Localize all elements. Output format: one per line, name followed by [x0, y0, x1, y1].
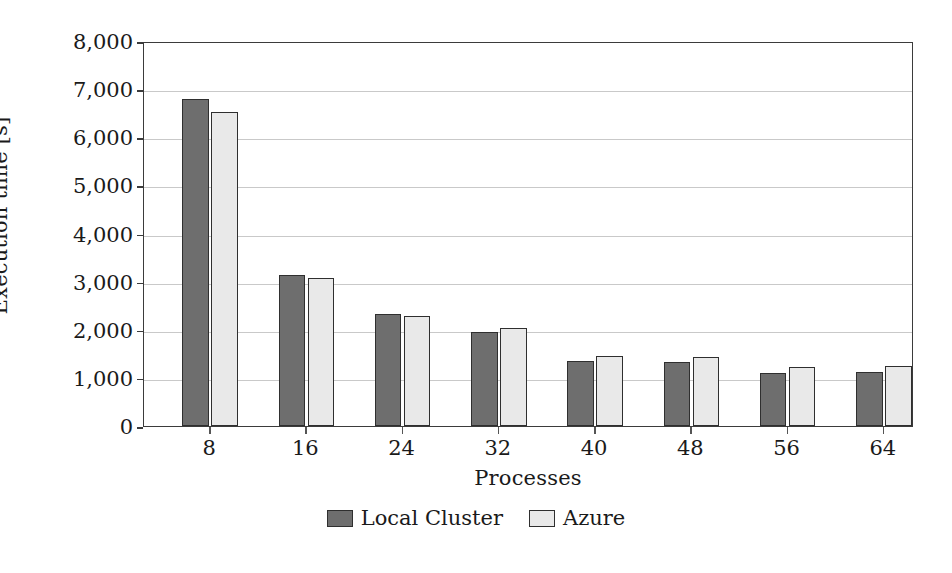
x-axis-tick-label: 40	[559, 438, 629, 459]
gridline	[144, 236, 912, 237]
bar-azure-56	[789, 367, 816, 426]
gridline	[144, 284, 912, 285]
y-axis-tick-mark	[137, 427, 143, 429]
bar-azure-48	[693, 357, 720, 426]
bar-azure-16	[308, 278, 335, 426]
x-axis-tick-mark	[498, 427, 499, 434]
x-axis-tick-label: 8	[174, 438, 244, 459]
bar-azure-24	[404, 316, 431, 426]
legend-label: Azure	[563, 508, 625, 529]
gridline	[144, 91, 912, 92]
x-axis-tick-mark	[305, 427, 306, 434]
bar-azure-64	[885, 366, 912, 426]
y-axis-tick-label: 5,000	[13, 176, 133, 197]
plot-area	[143, 42, 913, 427]
x-axis-tick-label: 64	[848, 438, 918, 459]
bar-local-cluster-48	[664, 362, 691, 426]
legend-swatch-icon	[327, 510, 353, 527]
legend-entry-azure[interactable]: Azure	[529, 508, 625, 529]
x-axis-tick-label: 48	[655, 438, 725, 459]
bar-local-cluster-32	[471, 332, 498, 426]
y-axis-tick-label: 4,000	[13, 225, 133, 246]
x-axis-tick-mark	[787, 427, 788, 434]
y-axis-tick-label: 7,000	[13, 80, 133, 101]
chart-legend: Local ClusterAzure	[0, 508, 952, 529]
x-axis-title: Processes	[143, 466, 913, 490]
x-axis-tick-label: 24	[367, 438, 437, 459]
x-axis-tick-label: 16	[270, 438, 340, 459]
legend-swatch-icon	[529, 510, 555, 527]
y-axis-tick-label: 8,000	[13, 32, 133, 53]
legend-entry-local-cluster[interactable]: Local Cluster	[327, 508, 503, 529]
bar-azure-8	[211, 112, 238, 426]
bar-local-cluster-24	[375, 314, 402, 426]
x-axis-tick-label: 32	[463, 438, 533, 459]
bar-local-cluster-40	[567, 361, 594, 426]
y-axis-tick-label: 3,000	[13, 273, 133, 294]
y-axis-tick-label: 2,000	[13, 321, 133, 342]
x-axis-tick-mark	[690, 427, 691, 434]
x-axis-tick-mark	[402, 427, 403, 434]
bar-chart-figure: Execution time [s] 01,0002,0003,0004,000…	[0, 0, 952, 573]
x-axis-tick-mark	[883, 427, 884, 434]
x-axis-tick-label: 56	[752, 438, 822, 459]
legend-label: Local Cluster	[361, 508, 503, 529]
bar-local-cluster-64	[856, 372, 883, 426]
gridline	[144, 332, 912, 333]
bar-local-cluster-16	[279, 275, 306, 426]
bar-azure-32	[500, 328, 527, 426]
bar-azure-40	[596, 356, 623, 426]
x-axis-tick-mark	[209, 427, 210, 434]
gridline	[144, 187, 912, 188]
gridline	[144, 139, 912, 140]
bar-local-cluster-56	[760, 373, 787, 426]
y-axis-tick-label: 6,000	[13, 128, 133, 149]
bar-local-cluster-8	[182, 99, 209, 426]
y-axis-tick-label: 1,000	[13, 369, 133, 390]
x-axis-tick-mark	[594, 427, 595, 434]
y-axis-tick-label: 0	[13, 417, 133, 438]
